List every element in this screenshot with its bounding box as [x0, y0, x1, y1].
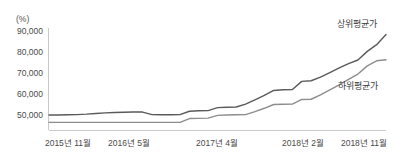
x-tick-label-0: 2015년 11월 [45, 138, 91, 148]
x-tick-label-4: 2018년 11월 [341, 138, 387, 148]
y-tick-label-90000: 90,000 [17, 26, 43, 36]
series-label-lower-average-price: 하위평균가 [338, 81, 378, 91]
x-tick-label-1: 2016년 5월 [108, 138, 150, 148]
y-tick-label-70000: 70,000 [17, 68, 43, 78]
y-axis-tick-labels: 90,000 80,000 70,000 60,000 50,000 [17, 26, 43, 120]
price-trend-line-chart: (%) 90,000 80,000 70,000 60,000 50,000 2… [0, 0, 398, 155]
y-tick-label-50000: 50,000 [17, 110, 43, 120]
y-tick-label-80000: 80,000 [17, 47, 43, 57]
x-tick-label-2: 2017년 4월 [196, 138, 238, 148]
y-tick-label-60000: 60,000 [17, 89, 43, 99]
y-axis-unit-label: (%) [16, 14, 29, 24]
series-label-upper-average-price: 상위평균가 [337, 19, 377, 29]
series-line-upper-average-price [49, 35, 386, 115]
chart-canvas: (%) 90,000 80,000 70,000 60,000 50,000 2… [0, 0, 398, 155]
x-tick-label-3: 2018년 2월 [282, 138, 324, 148]
x-axis-tick-labels: 2015년 11월 2016년 5월 2017년 4월 2018년 2월 201… [45, 138, 387, 148]
